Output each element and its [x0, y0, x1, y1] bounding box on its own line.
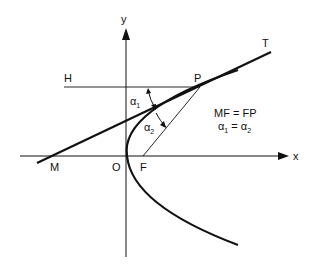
equation-alpha1-alpha2: α1 = α2	[218, 120, 251, 134]
angle-label-alpha2: α2	[144, 121, 154, 135]
arrowhead-icon	[160, 121, 166, 128]
point-label-H: H	[64, 72, 72, 84]
arrowhead-icon	[146, 88, 151, 94]
angle-label-alpha1: α1	[130, 95, 140, 109]
y-axis-label: y	[121, 13, 127, 25]
point-label-O: O	[112, 161, 121, 173]
x-axis-label: x	[293, 150, 299, 162]
equation-MF-FP: MF = FP	[214, 107, 256, 119]
point-label-T: T	[262, 37, 269, 49]
y-axis-arrow-icon	[122, 28, 130, 40]
point-label-M: M	[50, 161, 59, 173]
point-label-P: P	[194, 72, 201, 84]
point-label-F: F	[140, 161, 147, 173]
parabola-diagram: y x T H P M O F α1 α2 MF = FP α1 = α2	[0, 0, 316, 269]
parabola-curve	[127, 70, 238, 245]
x-axis-arrow-icon	[278, 152, 289, 160]
